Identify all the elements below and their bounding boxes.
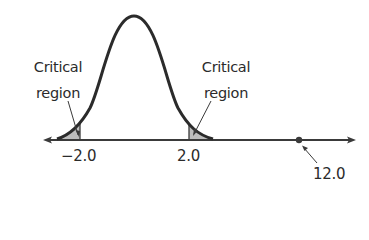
observed-value-dot [296,137,302,143]
point-label-12: 12.0 [313,166,345,183]
point-pointer [304,148,317,163]
left-label-line1: Critical [28,59,88,76]
tick-label-neg-2: −2.0 [61,148,96,165]
right-label-pointer [194,101,211,134]
left-label-line2: region [28,85,88,102]
right-critical-region-label: Critical region [196,59,256,102]
right-label-line2: region [196,85,256,102]
tick-label-pos-2: 2.0 [177,148,200,165]
point-pointer-arrowhead-icon [302,146,308,152]
left-critical-region-label: Critical region [28,59,88,102]
right-label-line1: Critical [196,59,256,76]
